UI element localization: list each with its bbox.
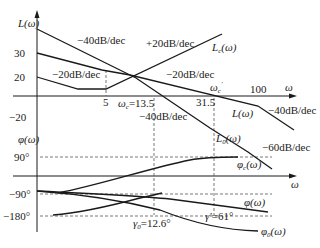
y-axis-label-L: L(ω) xyxy=(17,17,40,30)
gamma-prime-label: γ′=61° xyxy=(205,210,233,222)
curve-phi-lower xyxy=(53,193,162,215)
curve-phi-c xyxy=(58,157,238,193)
y-axis-label-phi: φ(ω) xyxy=(18,133,40,146)
curve-L0 xyxy=(37,29,272,169)
tick-90deg: 90° xyxy=(14,151,29,163)
omega-label-top: ω xyxy=(285,81,293,93)
magnitude-omega-arrow-icon xyxy=(289,94,297,99)
curve-label-Lc: Lc(ω) xyxy=(211,41,237,55)
omega-c-prime-label: ωc′ xyxy=(210,80,223,95)
tick-5: 5 xyxy=(103,96,109,108)
magnitude-curves xyxy=(37,29,294,169)
curve-label-L0: L0(ω) xyxy=(215,132,241,146)
curve-label-phic: φc(ω) xyxy=(237,158,262,172)
slope-label-s3: −20dB/dec xyxy=(52,68,100,80)
tick-minus180deg: −180° xyxy=(3,210,30,222)
omega-label-bottom: ω xyxy=(291,178,299,190)
tick-100: 100 xyxy=(250,83,267,95)
curve-label-phi: φ(ω) xyxy=(244,196,266,209)
tick-20: 20 xyxy=(14,71,26,83)
tick-30: 30 xyxy=(14,47,26,59)
slope-label-s2: +20dB/dec xyxy=(146,37,194,49)
slope-label-s6: −40dB/dec xyxy=(268,104,316,116)
bode-diagram: L(ω) 30 20 −20 5 100 ω ωc=13.5 ωc′ 31.5 … xyxy=(0,0,320,248)
curve-label-phi0: φ0(ω) xyxy=(261,225,286,239)
phase-labels: φ(ω) 90° −90° −180° ω γ0=12.6° γ′=61° φc… xyxy=(3,133,299,239)
omega-c-label: ωc=13.5 xyxy=(118,97,155,111)
curve-label-L: L(ω) xyxy=(231,107,254,120)
tick-minus90deg: −90° xyxy=(9,188,31,200)
slope-label-s7: −60dB/dec xyxy=(262,141,310,153)
slope-label-s5: −40dB/dec xyxy=(139,110,187,122)
gamma0-label: γ0=12.6° xyxy=(133,217,171,231)
bode-svg: L(ω) 30 20 −20 5 100 ω ωc=13.5 ωc′ 31.5 … xyxy=(0,0,320,248)
slope-label-s4: −20dB/dec xyxy=(166,68,214,80)
slope-label-s1: −40dB/dec xyxy=(77,34,125,46)
tick-31-5: 31.5 xyxy=(196,96,216,108)
tick-minus20: −20 xyxy=(9,111,27,123)
